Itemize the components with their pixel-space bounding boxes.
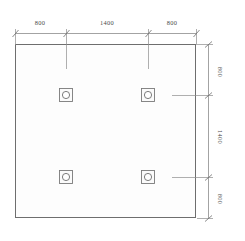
column-top-right [142, 89, 155, 102]
column-bottom-left [60, 171, 73, 184]
plan-svg-canvas: 800 1400 800 800 1400 800 [0, 0, 245, 241]
right-dimension-label-2: 1400 [217, 130, 224, 144]
top-dimension-label-3: 800 [167, 19, 178, 26]
foundation-slab-outline [16, 45, 196, 218]
top-dimension-label-2: 1400 [100, 19, 114, 26]
column-circle-icon [62, 91, 69, 98]
column-circle-icon [62, 173, 69, 180]
column-circle-icon [144, 173, 151, 180]
column-circle-icon [144, 91, 151, 98]
column-bottom-right [142, 171, 155, 184]
column-top-left [60, 89, 73, 102]
top-dimension-label-1: 800 [35, 19, 46, 26]
right-dimension-label-1: 800 [217, 67, 224, 78]
foundation-plan-drawing: 800 1400 800 800 1400 800 [0, 0, 245, 241]
right-dimension-label-3: 800 [217, 194, 224, 205]
